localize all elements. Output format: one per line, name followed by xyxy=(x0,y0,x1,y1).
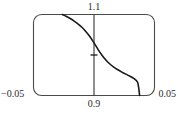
axis-label-bottom: 0.9 xyxy=(6,98,178,109)
plot-figure: 1.1 0.9 −0.05 0.05 xyxy=(0,0,177,120)
axis-label-top: 1.1 xyxy=(6,1,178,12)
axis-label-left: −0.05 xyxy=(1,88,24,99)
axis-label-right: 0.05 xyxy=(159,88,177,99)
